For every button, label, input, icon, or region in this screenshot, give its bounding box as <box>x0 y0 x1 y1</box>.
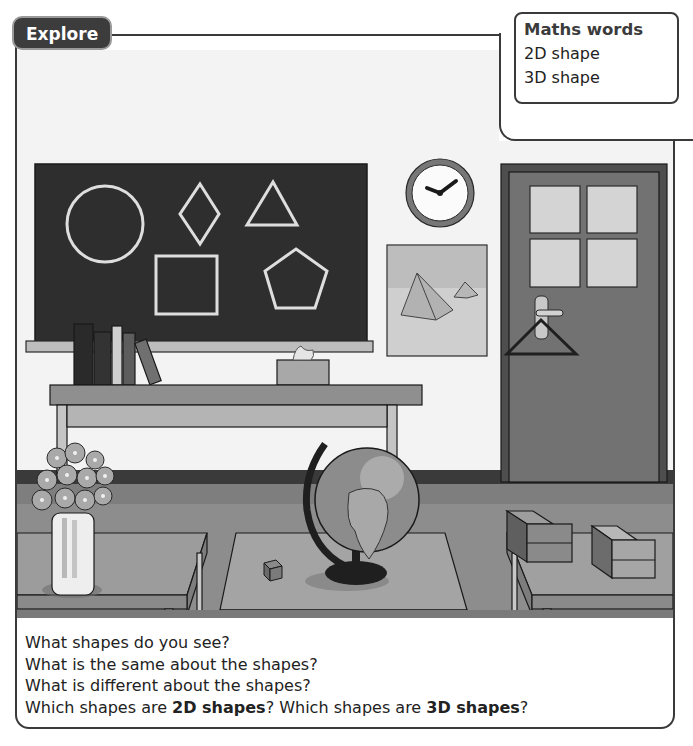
classroom-illustration <box>17 148 673 618</box>
door <box>501 164 667 482</box>
explore-tab-label: Explore <box>26 24 98 44</box>
question-4-text-c: ? <box>520 698 529 717</box>
question-4-text-b: ? Which shapes are <box>266 698 427 717</box>
cube-icon <box>264 560 282 581</box>
maths-word-3d-shape: 3D shape <box>524 66 669 90</box>
term-2d-shapes: 2D shapes <box>172 698 266 717</box>
questions: What shapes do you see? What is the same… <box>25 632 665 718</box>
question-4-text-a: Which shapes are <box>25 698 172 717</box>
maths-word-2d-shape: 2D shape <box>524 42 669 66</box>
scene-upper-wall <box>17 50 499 148</box>
door-handle <box>536 310 563 316</box>
question-4: Which shapes are 2D shapes? Which shapes… <box>25 697 665 719</box>
maths-words-box: Maths words 2D shape 3D shape <box>514 12 679 104</box>
page-top-strip <box>0 0 690 12</box>
door-handle-plate <box>535 296 548 339</box>
question-3: What is different about the shapes? <box>25 675 665 697</box>
question-2: What is the same about the shapes? <box>25 654 665 676</box>
pyramid-picture <box>387 245 487 356</box>
explore-tab: Explore <box>12 16 112 50</box>
classroom-scene <box>17 148 673 618</box>
desk-left <box>17 533 207 618</box>
maths-words-title: Maths words <box>524 18 669 42</box>
clock-icon <box>406 159 474 227</box>
question-1: What shapes do you see? <box>25 632 665 654</box>
term-3d-shapes: 3D shapes <box>426 698 520 717</box>
